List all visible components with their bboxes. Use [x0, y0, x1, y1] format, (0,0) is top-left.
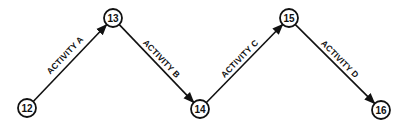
edge-activity-c: ACTIVITY C — [206, 25, 282, 103]
node-13: 13 — [104, 9, 122, 27]
arrow-icon — [295, 25, 374, 104]
node-14: 14 — [191, 100, 209, 118]
arrow-icon — [34, 25, 107, 101]
node-15: 15 — [280, 9, 298, 27]
node-label-15: 15 — [283, 13, 295, 24]
node-label-12: 12 — [21, 103, 33, 114]
edge-activity-a: ACTIVITY A — [34, 25, 107, 101]
node-label-14: 14 — [194, 104, 206, 115]
node-16: 16 — [372, 101, 390, 119]
edge-label-activity-c: ACTIVITY C — [219, 38, 260, 80]
edge-activity-b: ACTIVITY B — [119, 25, 193, 103]
edge-label-activity-b: ACTIVITY B — [141, 37, 182, 79]
edge-label-activity-a: ACTIVITY A — [44, 34, 85, 76]
node-label-13: 13 — [107, 13, 119, 24]
node-label-16: 16 — [375, 105, 387, 116]
arrow-icon — [206, 25, 282, 103]
node-12: 12 — [18, 99, 36, 117]
edge-activity-d: ACTIVITY D — [295, 25, 374, 104]
edge-label-activity-d: ACTIVITY D — [319, 38, 361, 80]
network-diagram: ACTIVITY A ACTIVITY B ACTIVITY C ACTIVIT… — [0, 0, 403, 128]
arrow-icon — [119, 25, 193, 103]
